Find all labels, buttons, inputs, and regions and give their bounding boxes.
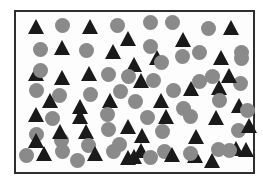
circle-icon [212, 93, 227, 108]
triangle-icon [223, 20, 239, 35]
triangle-icon [208, 110, 224, 125]
circle-icon [234, 51, 249, 66]
circle-icon [166, 83, 181, 98]
triangle-icon [52, 124, 68, 139]
circle-icon [165, 15, 180, 30]
triangle-icon [188, 129, 204, 144]
circle-icon [101, 122, 116, 137]
triangle-icon [204, 153, 220, 168]
triangle-icon [183, 81, 199, 96]
circle-icon [70, 153, 85, 168]
triangle-icon [54, 40, 70, 55]
triangle-icon [54, 70, 70, 85]
triangle-icon [28, 19, 44, 34]
triangle-icon [213, 50, 229, 65]
circle-icon [201, 21, 216, 36]
circle-icon [140, 110, 155, 125]
triangle-icon [36, 146, 52, 161]
circle-icon [101, 67, 116, 82]
circle-icon [100, 107, 115, 122]
circle-icon [155, 124, 170, 139]
circle-icon [128, 94, 143, 109]
triangle-icon [134, 128, 150, 143]
circle-icon [183, 146, 198, 161]
circle-icon [79, 43, 94, 58]
circle-icon [55, 18, 70, 33]
circle-icon [240, 103, 255, 118]
circle-icon [175, 49, 190, 64]
circle-icon [106, 144, 121, 159]
triangle-icon [158, 109, 174, 124]
circle-icon [33, 42, 48, 57]
triangle-icon [120, 31, 136, 46]
triangle-icon [28, 107, 44, 122]
circle-icon [143, 15, 158, 30]
triangle-icon [238, 142, 254, 157]
circle-icon [55, 144, 70, 159]
triangle-icon [78, 124, 94, 139]
circle-icon [146, 73, 161, 88]
triangle-icon [126, 149, 142, 164]
triangle-icon [221, 68, 237, 83]
triangle-icon [87, 146, 103, 161]
triangle-icon [81, 66, 97, 81]
triangle-icon [72, 109, 88, 124]
circle-icon [19, 148, 34, 163]
circle-icon [183, 109, 198, 124]
triangle-icon [42, 93, 58, 108]
triangle-icon [164, 147, 180, 162]
circle-icon [121, 69, 136, 84]
triangle-icon [102, 93, 118, 108]
triangle-icon [105, 44, 121, 59]
shape-diagram [0, 0, 263, 184]
circle-icon [192, 45, 207, 60]
triangle-icon [175, 32, 191, 47]
circle-icon [222, 143, 237, 158]
circle-icon [143, 150, 158, 165]
circle-icon [205, 69, 220, 84]
circle-icon [154, 55, 169, 70]
circle-icon [33, 63, 48, 78]
triangle-icon [241, 118, 257, 133]
triangle-icon [82, 19, 98, 34]
